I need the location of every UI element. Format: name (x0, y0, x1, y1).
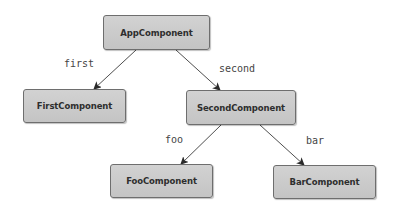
node-second-component: SecondComponent (186, 90, 296, 125)
edge-label-foo: foo (165, 135, 183, 145)
component-tree-diagram: AppComponent FirstComponent SecondCompon… (0, 0, 396, 212)
edge-second-bar (260, 125, 304, 165)
node-app-component: AppComponent (103, 15, 210, 50)
node-foo-component: FooComponent (110, 164, 213, 198)
node-first-component: FirstComponent (23, 89, 126, 123)
node-bar-component: BarComponent (273, 165, 376, 199)
edge-second-foo (181, 125, 221, 164)
edge-label-bar: bar (306, 136, 324, 146)
edge-label-second: second (219, 64, 255, 74)
edge-app-first (94, 50, 136, 89)
edge-app-second (176, 50, 220, 90)
edge-label-first: first (64, 59, 94, 69)
